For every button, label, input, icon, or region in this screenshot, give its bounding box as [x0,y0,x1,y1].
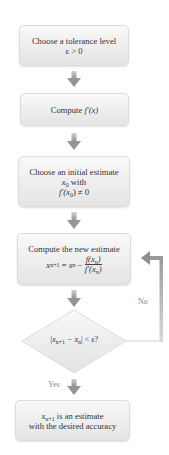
formula-fraction: f(xn) f′(xn) [85,255,102,274]
compute-derivative-box: Compute f′(x) [20,93,129,126]
yes-label: Yes [48,380,60,389]
decision-text: |xn+1 − xn| < ε? [22,335,126,345]
result-box: xn+1 is an estimate with the desired acc… [15,400,130,441]
tolerance-line1: Choose a tolerance level [32,36,116,46]
connectors-layer [0,0,169,455]
new-estimate-line1: Compute the new estimate [28,244,119,254]
newton-formula: xn+1 = xn − f(xn) f′(xn) [46,255,101,274]
arrow-down-icon [67,379,81,395]
derivative-func: f′(x) [84,105,98,115]
tolerance-box: Choose a tolerance level ε > 0 [19,25,129,66]
arrow-down-icon [67,212,81,229]
initial-line1: Choose an initial estimate [29,167,118,177]
result-line2: with the desired accuracy [29,421,117,431]
new-estimate-box: Compute the new estimate xn+1 = xn − f(x… [17,233,131,285]
arrow-down-icon [67,71,81,87]
initial-estimate-box: Choose an initial estimate x0 with f′(x0… [18,156,130,207]
tolerance-line2: ε > 0 [65,46,82,56]
arrow-down-icon [67,133,81,150]
derivative-prefix: Compute [51,105,85,115]
arrow-down-icon [67,290,81,307]
no-label: No [138,297,148,306]
